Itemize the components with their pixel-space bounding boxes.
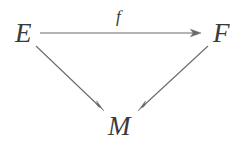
node-label-f-object: F — [213, 20, 230, 47]
node-label-m: M — [108, 113, 131, 140]
node-label-e: E — [15, 20, 32, 47]
arrow-f-to-m-head — [138, 101, 146, 111]
arrow-label-f: f — [116, 8, 121, 25]
arrow-e-to-m-head — [96, 101, 104, 111]
arrow-e-to-f — [40, 29, 201, 37]
arrow-e-to-m — [36, 46, 104, 111]
arrow-e-to-m-shaft — [36, 46, 101, 108]
arrow-f-to-m-shaft — [142, 46, 209, 108]
arrow-f-to-m — [138, 46, 208, 111]
commutative-diagram: E F M f — [0, 0, 245, 149]
